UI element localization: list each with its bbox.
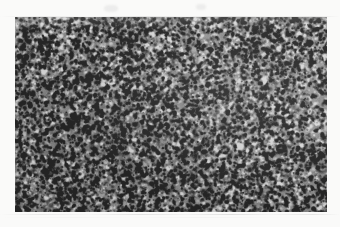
- histology-micrograph-image: [15, 17, 327, 212]
- figure-canvas: [0, 0, 340, 227]
- margin-smudge-top-icon: [104, 5, 118, 12]
- scan-streak-bottom: [0, 214, 340, 215]
- scan-streak-bottom-2: [0, 217, 340, 218]
- margin-smudge-top-right-icon: [196, 4, 206, 10]
- histology-micrograph-panel: [15, 17, 327, 212]
